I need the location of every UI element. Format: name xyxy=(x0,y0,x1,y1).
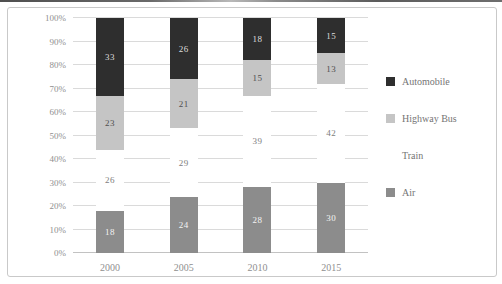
segment-highway-bus: 13 xyxy=(317,53,345,84)
y-tick-label: 20% xyxy=(10,201,66,212)
segment-value-label: 33 xyxy=(105,52,115,62)
legend-label: Automobile xyxy=(402,76,450,87)
segment-value-label: 18 xyxy=(105,227,115,237)
segment-value-label: 21 xyxy=(179,99,189,109)
segment-value-label: 24 xyxy=(179,220,189,230)
top-horizontal-rule xyxy=(0,0,502,2)
legend-swatch-icon xyxy=(386,114,395,123)
segment-automobile: 33 xyxy=(96,18,124,96)
legend-swatch-icon xyxy=(386,188,395,197)
y-tick-label: 80% xyxy=(10,60,66,71)
chart-frame: 0%10%20%30%40%50%60%70%80%90%100% 182623… xyxy=(7,7,497,277)
legend-swatch-icon xyxy=(386,151,395,160)
segment-train: 42 xyxy=(317,84,345,183)
segment-value-label: 13 xyxy=(326,64,336,74)
segment-value-label: 23 xyxy=(105,118,115,128)
segment-value-label: 29 xyxy=(179,158,189,168)
segment-air: 18 xyxy=(96,211,124,253)
segment-automobile: 15 xyxy=(317,18,345,53)
segment-automobile: 26 xyxy=(170,18,198,79)
segment-value-label: 26 xyxy=(179,44,189,54)
segment-value-label: 30 xyxy=(326,213,336,223)
legend-label: Train xyxy=(402,150,423,161)
segment-train: 39 xyxy=(243,96,271,188)
x-tick-label: 2010 xyxy=(221,261,295,274)
bar-2005: 24292126 xyxy=(170,18,198,253)
y-tick-label: 50% xyxy=(10,131,66,142)
legend-swatch-icon xyxy=(386,77,395,86)
legend-item-automobile: Automobile xyxy=(386,75,450,87)
legend-item-air: Air xyxy=(386,186,415,198)
y-tick-label: 0% xyxy=(10,248,66,259)
segment-highway-bus: 23 xyxy=(96,96,124,150)
legend-item-train: Train xyxy=(386,149,423,161)
plot-area: 18262333242921262839151830421315 xyxy=(73,18,368,253)
segment-value-label: 42 xyxy=(326,128,336,138)
x-tick-label: 2000 xyxy=(73,261,147,274)
y-tick-label: 30% xyxy=(10,178,66,189)
segment-train: 29 xyxy=(170,128,198,196)
segment-value-label: 28 xyxy=(252,215,262,225)
bar-2000: 18262333 xyxy=(96,18,124,253)
y-tick-label: 70% xyxy=(10,84,66,95)
y-tick-label: 40% xyxy=(10,154,66,165)
segment-value-label: 26 xyxy=(105,175,115,185)
segment-air: 28 xyxy=(243,187,271,253)
y-tick-label: 10% xyxy=(10,225,66,236)
segment-value-label: 15 xyxy=(252,73,262,83)
segment-train: 26 xyxy=(96,150,124,211)
x-tick-label: 2005 xyxy=(147,261,221,274)
segment-highway-bus: 21 xyxy=(170,79,198,128)
segment-value-label: 39 xyxy=(252,136,262,146)
bar-2015: 30421315 xyxy=(317,18,345,253)
y-tick-label: 90% xyxy=(10,37,66,48)
y-tick-label: 60% xyxy=(10,107,66,118)
segment-automobile: 18 xyxy=(243,18,271,60)
legend-item-highway-bus: Highway Bus xyxy=(386,112,457,124)
legend-label: Highway Bus xyxy=(402,113,457,124)
legend-label: Air xyxy=(402,187,415,198)
segment-air: 30 xyxy=(317,183,345,254)
x-tick-label: 2015 xyxy=(294,261,368,274)
segment-value-label: 15 xyxy=(326,31,336,41)
segment-air: 24 xyxy=(170,197,198,253)
bar-2010: 28391518 xyxy=(243,18,271,253)
y-tick-label: 100% xyxy=(10,13,66,24)
segment-highway-bus: 15 xyxy=(243,60,271,95)
segment-value-label: 18 xyxy=(252,34,262,44)
